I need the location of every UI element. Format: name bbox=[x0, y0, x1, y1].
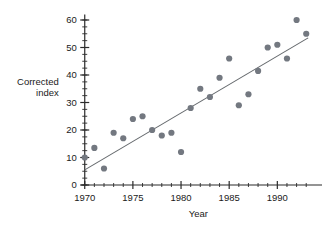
x-tick-label: 1990 bbox=[267, 192, 288, 203]
scatter-chart: 0102030405060 19701975198019851990 Year … bbox=[0, 0, 327, 228]
data-point bbox=[168, 130, 174, 136]
x-tick-label: 1975 bbox=[122, 192, 143, 203]
y-axis-title-line2: index bbox=[36, 87, 59, 98]
data-point bbox=[197, 86, 203, 92]
data-point bbox=[188, 105, 194, 111]
data-point bbox=[255, 68, 261, 74]
y-axis-group: 0102030405060 bbox=[66, 14, 89, 190]
x-axis-title: Year bbox=[189, 208, 208, 219]
x-tick-label: 1980 bbox=[170, 192, 191, 203]
data-point bbox=[293, 17, 299, 23]
data-point bbox=[284, 55, 290, 61]
y-tick-label: 40 bbox=[66, 69, 77, 80]
data-point bbox=[82, 154, 88, 160]
data-point bbox=[111, 130, 117, 136]
y-tick-label: 20 bbox=[66, 124, 77, 135]
y-tick-label: 60 bbox=[66, 14, 77, 25]
x-axis-group: 19701975198019851990 bbox=[74, 181, 322, 203]
data-point bbox=[159, 132, 165, 138]
data-point bbox=[226, 55, 232, 61]
trend-line bbox=[85, 38, 308, 170]
data-points bbox=[82, 17, 310, 172]
data-point bbox=[149, 127, 155, 133]
y-tick-label: 50 bbox=[66, 42, 77, 53]
data-point bbox=[216, 75, 222, 81]
data-point bbox=[101, 165, 107, 171]
data-point bbox=[274, 42, 280, 48]
data-point bbox=[178, 149, 184, 155]
x-axis-tick-labels: 19701975198019851990 bbox=[74, 192, 288, 203]
y-axis-tick-labels: 0102030405060 bbox=[66, 14, 77, 190]
data-point bbox=[139, 113, 145, 119]
y-tick-label: 0 bbox=[71, 179, 76, 190]
chart-canvas: 0102030405060 19701975198019851990 Year … bbox=[0, 0, 327, 228]
y-axis-title-line1: Corrected bbox=[17, 76, 59, 87]
data-point bbox=[207, 94, 213, 100]
data-point bbox=[120, 135, 126, 141]
data-point bbox=[130, 116, 136, 122]
data-point bbox=[236, 102, 242, 108]
data-point bbox=[303, 31, 309, 37]
data-point bbox=[91, 145, 97, 151]
y-tick-label: 30 bbox=[66, 97, 77, 108]
data-point bbox=[265, 44, 271, 50]
x-tick-label: 1985 bbox=[219, 192, 240, 203]
y-tick-label: 10 bbox=[66, 152, 77, 163]
data-point bbox=[245, 91, 251, 97]
x-tick-label: 1970 bbox=[74, 192, 95, 203]
